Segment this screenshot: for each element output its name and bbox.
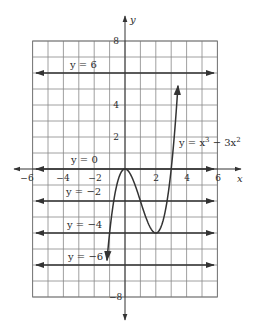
cubic-curve <box>107 86 178 261</box>
tick-y-4: 4 <box>113 100 119 110</box>
tick-x-m4: −4 <box>56 173 70 183</box>
curve-label-prefix: y = x <box>178 137 205 148</box>
label-y-6: y = 6 <box>69 59 97 70</box>
tick-x-m2: −2 <box>88 173 101 183</box>
tick-x-6: 6 <box>215 173 221 183</box>
tick-y-m8: −8 <box>109 292 123 302</box>
label-y-neg6: y = −6 <box>67 251 103 262</box>
tick-y-2: 2 <box>113 132 119 142</box>
tick-x-m6: −6 <box>20 173 34 183</box>
y-axis-label: y <box>129 14 136 25</box>
label-y-neg4: y = −4 <box>66 219 102 230</box>
tick-y-8: 8 <box>113 36 119 46</box>
label-y-0: y = 0 <box>70 154 98 165</box>
cubic-graph: −6 −4 −2 2 4 6 8 4 2 −8 x y y = 6 y = 0 … <box>0 0 254 329</box>
tick-x-2: 2 <box>153 173 159 183</box>
label-y-neg2: y = −2 <box>65 186 101 197</box>
tick-x-4: 4 <box>184 173 190 183</box>
x-axis-label: x <box>237 173 243 184</box>
curve-label-mid: − 3x <box>210 137 237 148</box>
curve-label-exp2: 2 <box>236 136 240 144</box>
line-labels: y = 6 y = 0 y = −2 y = −4 y = −6 <box>65 59 103 262</box>
curve-label: y = x3 − 3x2 <box>178 136 241 148</box>
